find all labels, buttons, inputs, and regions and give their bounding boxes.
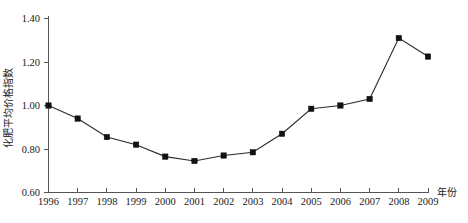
- y-axis-ticks: 1.40 1.20 1.00 0.80 0.60: [22, 13, 49, 198]
- data-point-2004: [279, 131, 284, 136]
- x-tick-label-2003: 2003: [242, 196, 263, 207]
- data-point-2001: [192, 158, 197, 163]
- x-axis-ticks: [49, 188, 429, 193]
- data-point-1997: [75, 116, 80, 121]
- x-tick-label-2001: 2001: [184, 196, 205, 207]
- x-tick-label-2007: 2007: [359, 196, 380, 207]
- data-point-2007: [367, 96, 372, 101]
- data-point-2003: [250, 150, 255, 155]
- data-point-1998: [104, 134, 109, 139]
- chart-container: 1.40 1.20 1.00 0.80 0.60 化肥平均价格指数: [0, 0, 468, 223]
- data-point-2005: [309, 106, 314, 111]
- data-point-2006: [338, 103, 343, 108]
- x-tick-label-2006: 2006: [330, 196, 351, 207]
- y-tick-label-1.20: 1.20: [22, 57, 40, 68]
- y-tick-label-1.40: 1.40: [22, 13, 40, 24]
- data-point-1996: [46, 103, 51, 108]
- y-axis-title: 化肥平均价格指数: [2, 68, 14, 148]
- y-tick-label-1.00: 1.00: [22, 100, 40, 111]
- x-tick-label-2005: 2005: [301, 196, 322, 207]
- data-point-1999: [133, 142, 138, 147]
- line-chart-plot: 1.40 1.20 1.00 0.80 0.60 化肥平均价格指数: [0, 0, 468, 223]
- data-point-2000: [163, 154, 168, 159]
- y-tick-label-0.80: 0.80: [22, 144, 40, 155]
- x-tick-label-1998: 1998: [96, 196, 117, 207]
- x-tick-label-2008: 2008: [388, 196, 409, 207]
- series-markers: [46, 35, 431, 163]
- data-point-2009: [425, 54, 430, 59]
- x-axis-tick-labels: 1996 1997 1998 1999 2000 2001 2002 2003 …: [38, 196, 439, 207]
- data-point-2002: [221, 153, 226, 158]
- x-tick-label-2000: 2000: [155, 196, 176, 207]
- x-tick-label-2009: 2009: [418, 196, 439, 207]
- x-tick-label-1997: 1997: [67, 196, 88, 207]
- data-point-2008: [396, 35, 401, 40]
- x-tick-label-1996: 1996: [38, 196, 59, 207]
- x-axis-title: 年份: [437, 186, 457, 198]
- x-tick-label-2002: 2002: [213, 196, 234, 207]
- x-tick-label-1999: 1999: [126, 196, 147, 207]
- x-tick-label-2004: 2004: [272, 196, 294, 207]
